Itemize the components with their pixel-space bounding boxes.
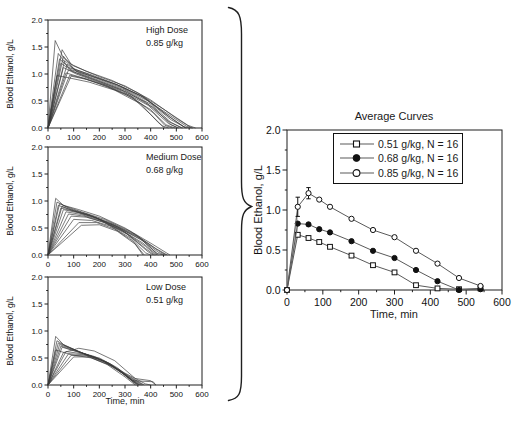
subject-curve [48,61,187,129]
open-circle-marker [370,227,375,232]
y-tick-label: 1.0 [266,204,281,216]
y-tick-label: 0.0 [31,124,43,133]
open-circle-marker [306,191,311,196]
x-tick-label: 500 [170,390,184,399]
y-tick-label: 1.0 [31,197,43,206]
x-tick-label: 600 [195,133,209,142]
legend-row-051: 0.51 g/kg, N = 16 [339,137,455,151]
legend-row-068: 0.68 g/kg, N = 16 [339,151,455,165]
x-tick-label: 400 [422,296,440,308]
subject-curve [48,202,167,255]
curly-brace-shape [0,0,527,428]
y-tick-label: 1.5 [31,300,43,309]
subject-curve [48,216,153,255]
x-tick-label: 0 [46,133,51,142]
y-tick-label: 0.5 [31,97,43,106]
x-tick-label: 200 [93,260,107,269]
y-tick-label: 0.0 [31,381,43,390]
subject-curve [48,206,164,255]
average-curves-panel: 01002003004005006000.00.51.01.52.0Blood … [0,0,527,428]
open-circle-marker-icon [339,167,375,179]
low-dose-title: Low Dose 0.51 g/kg [146,281,186,307]
filled-circle-marker [392,255,397,260]
subject-curve [48,75,172,128]
subject-curve [48,352,139,385]
medium-dose-title-line1: Medium Dose [146,151,202,164]
subject-curves [48,41,196,128]
subject-curve [48,346,140,385]
subject-curve [48,214,155,255]
series-0.8516 [284,188,483,293]
open-circle-marker [284,287,289,292]
y-tick-label: 2.0 [266,124,281,136]
y-tick-label: 2.0 [31,143,43,152]
open-square-marker [457,287,462,292]
y-tick-label: 0.0 [31,251,43,260]
open-square-marker-icon [339,138,375,150]
open-square-marker [317,240,322,245]
filled-circle-marker [435,279,440,284]
x-tick-label: 0 [284,296,290,308]
filled-circle-marker [306,222,311,227]
filled-circle-marker [295,221,300,226]
filled-circle-marker [370,248,375,253]
subject-curve [48,76,169,128]
subject-curve [48,345,142,386]
open-square-marker [306,236,311,241]
legend-label-085: 0.85 g/kg, N = 16 [378,167,458,179]
subject-curve [48,208,158,255]
x-tick-label: 500 [170,260,184,269]
open-square-marker [435,286,440,291]
subject-curve [48,354,137,385]
x-tick-label: 200 [93,133,107,142]
x-tick-label: 100 [67,390,81,399]
subject-curve [48,53,193,128]
average-curves-title: Average Curves [355,110,434,122]
open-square-marker [371,263,376,268]
subject-curve [48,63,183,128]
filled-circle-marker [478,287,483,292]
medium-dose-panel: 01002003004005006000.00.51.01.52.0Blood … [0,0,527,428]
subject-curve [48,205,165,255]
y-tick-label: 0.0 [266,284,281,296]
subject-curve [48,204,166,255]
subject-curve [48,68,179,128]
y-tick-label: 2.0 [31,16,43,25]
subject-curve [48,198,170,255]
high-dose-title-line2: 0.85 g/kg [146,37,188,50]
x-tick-label: 400 [144,390,158,399]
subject-curve [48,219,151,255]
subject-curve [48,210,157,255]
y-axis-label: Blood Ethanol, g/L [5,166,15,236]
filled-circle-marker [413,267,418,272]
filled-circle-marker [349,239,354,244]
subject-curve [48,357,135,385]
x-tick-label: 400 [144,133,158,142]
medium-dose-title: Medium Dose 0.68 g/kg [146,151,202,177]
average-time-axis-label: Time, min [370,308,418,320]
subject-curves [48,198,170,255]
legend-row-085: 0.85 g/kg, N = 16 [339,166,455,180]
low-dose-title-line2: 0.51 g/kg [146,294,186,307]
x-tick-label: 0 [46,260,51,269]
x-tick-label: 500 [457,296,475,308]
y-tick-label: 0.5 [31,224,43,233]
subject-curve [48,225,143,255]
left-time-axis-label: Time, min [105,396,144,406]
subject-curve [48,50,196,128]
subject-curve [48,347,139,385]
subject-curve [48,348,156,385]
subject-curve [48,343,143,385]
open-circle-marker [295,204,300,209]
figure-canvas: 01002003004005006000.00.51.01.52.0Blood … [0,0,527,428]
low-dose-panel: 01002003004005006000.00.51.01.52.0Blood … [0,0,527,428]
series-0.5116 [285,232,483,292]
open-square-marker [392,270,397,275]
subject-curve [48,341,144,385]
open-circle-marker [349,216,354,221]
y-tick-label: 1.5 [31,43,43,52]
open-square-marker [414,283,419,288]
x-tick-label: 600 [195,390,209,399]
x-tick-label: 0 [46,390,51,399]
x-tick-label: 100 [314,296,332,308]
